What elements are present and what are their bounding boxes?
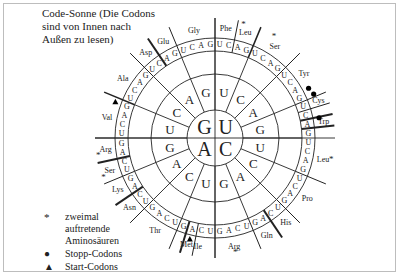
third-base: U [128, 94, 134, 103]
third-base: A [164, 54, 170, 63]
asterisk-icon: * [329, 154, 334, 164]
third-base: G [305, 129, 311, 138]
second-base: C [172, 105, 181, 120]
amino-acid-asn: Asn [123, 203, 136, 212]
second-base: C [249, 156, 258, 171]
third-base: A [260, 214, 266, 223]
third-base: G [243, 46, 249, 55]
legend-stop: ● Stopp-Codons [44, 248, 122, 260]
second-base: G [255, 122, 264, 137]
third-base: U [119, 129, 125, 138]
amino-acid-gly: Gly [188, 26, 200, 35]
legend-text: Start-Codons [65, 261, 118, 273]
third-base: C [199, 226, 204, 235]
third-base: U [275, 203, 281, 212]
asterisk-icon: * [233, 247, 238, 257]
stop-dot-icon: ● [44, 248, 65, 260]
legend-twice: * zweimal auftretende Aminosäuren [44, 211, 122, 247]
third-base: C [120, 120, 125, 129]
third-base: A [120, 148, 126, 157]
first-base-U: U [218, 116, 233, 138]
third-base: U [172, 218, 178, 227]
third-base: G [207, 40, 213, 49]
third-base: G [252, 218, 258, 227]
amino-acid-ala: Ala [117, 74, 129, 83]
amino-acid-leu: Leu [239, 28, 251, 37]
stop-codon-dot-icon [306, 86, 311, 91]
amino-acid-cys: Cys [312, 96, 324, 105]
third-base: G [119, 139, 125, 148]
third-base: G [124, 102, 130, 111]
legend-text: zweimal [65, 211, 119, 223]
third-base: G [149, 203, 155, 212]
third-base: G [143, 71, 149, 80]
third-base: U [181, 46, 187, 55]
third-base: C [268, 209, 273, 218]
third-base: A [132, 182, 138, 191]
third-base: C [305, 147, 310, 156]
third-base: A [287, 189, 293, 198]
third-base: A [226, 226, 232, 235]
amino-acid-ser: Ser [104, 166, 115, 175]
amino-acid-his: His [280, 218, 291, 227]
third-base: C [137, 190, 142, 199]
third-base: U [208, 227, 214, 236]
asterisk-icon: * [272, 31, 277, 41]
third-base: A [189, 225, 195, 234]
start-codon-triangle-icon [187, 236, 193, 242]
third-base: C [190, 43, 195, 52]
amino-acid-val: Val [102, 113, 113, 122]
amino-acid-ser: Ser [270, 42, 281, 51]
second-base: G [201, 85, 210, 100]
third-base: U [244, 222, 250, 231]
third-base: G [217, 227, 223, 236]
third-base: U [300, 102, 306, 111]
start-codon-triangle-icon [112, 99, 118, 105]
asterisk-icon: * [96, 150, 101, 160]
second-base: G [165, 140, 174, 155]
third-base: A [198, 41, 204, 50]
second-base: A [185, 92, 195, 107]
second-base: A [172, 156, 182, 171]
amino-acid-thr: Thr [149, 226, 161, 235]
third-base: A [235, 43, 241, 52]
amino-acid-ile: Ile [194, 242, 203, 251]
asterisk-icon: * [44, 211, 65, 223]
second-base: C [236, 92, 245, 107]
start-triangle-icon: ▲ [44, 261, 65, 273]
third-base: C [157, 59, 162, 68]
third-base: A [156, 209, 162, 218]
amino-acid-leu: Leu [317, 155, 329, 164]
amino-acid-gln: Gln [261, 231, 273, 240]
legend-start: ▲ Start-Codons [44, 261, 122, 273]
third-base: C [293, 182, 298, 191]
first-base-A: A [197, 138, 212, 160]
second-base: U [219, 85, 229, 100]
third-base: C [164, 214, 169, 223]
third-base: U [305, 138, 311, 147]
third-base: C [303, 111, 308, 120]
third-base: G [275, 64, 281, 73]
amino-acid-lys: Lys [112, 185, 124, 194]
third-base: G [128, 174, 134, 183]
second-base: U [165, 122, 175, 137]
second-base: A [249, 105, 259, 120]
third-base: C [122, 157, 127, 166]
amino-acid-phe: Phe [220, 24, 232, 33]
stop-codon-dot-icon [316, 115, 321, 120]
third-base: G [281, 196, 287, 205]
third-base: U [149, 65, 155, 74]
third-base: U [252, 49, 258, 58]
third-base: A [121, 111, 127, 120]
legend-text: Stopp-Codons [65, 248, 122, 260]
second-base: C [185, 169, 194, 184]
second-base: U [255, 140, 265, 155]
legend-text: Aminosäuren [65, 235, 119, 247]
amino-acid-pro: Pro [302, 194, 313, 203]
first-base-C: C [219, 138, 232, 160]
amino-acid-tyr: Tyr [298, 69, 309, 78]
third-base: G [172, 49, 178, 58]
third-base: C [260, 54, 265, 63]
third-base: G [181, 222, 187, 231]
third-base: U [124, 165, 130, 174]
